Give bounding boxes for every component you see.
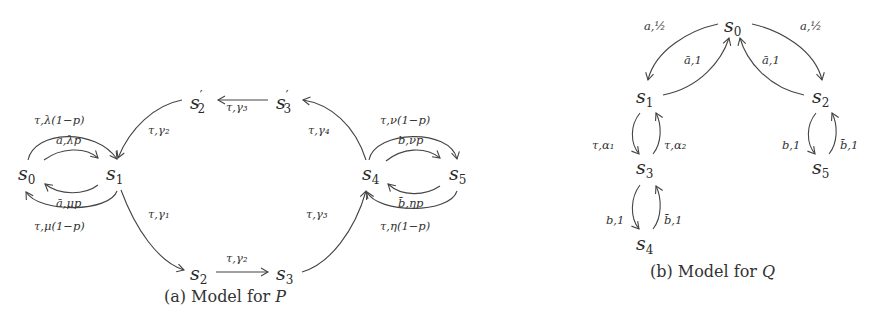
state-a-s3-prime: s′3 (276, 89, 291, 116)
label-b-s1-s0: ā,1 (684, 53, 702, 67)
label-b-s1-s3: τ,α₁ (592, 138, 614, 152)
label-a-s5-s4-outer: τ,η(1−p) (380, 219, 430, 233)
label-b-s2-s5: b,1 (782, 138, 800, 152)
state-a-s2: s2 (190, 262, 207, 287)
label-b-s3-s1: τ,α₂ (664, 138, 687, 152)
label-a-s3-s4: τ,γ₃ (306, 207, 328, 221)
state-a-s4: s4 (362, 162, 380, 187)
edge-b-s3-s1 (653, 113, 660, 154)
edge-a-s3-s4 (302, 191, 366, 272)
state-a-s0: s0 (18, 162, 35, 187)
label-a-s4-s5-outer: τ,ν(1−p) (380, 113, 430, 127)
edge-a-s0-s1-inner (44, 150, 98, 160)
label-a-s0-s1-outer: τ,λ(1−p) (34, 113, 85, 127)
edge-a-s1-s0-inner (45, 184, 98, 193)
label-b-s5-s2: b̄,1 (840, 138, 858, 152)
state-b-s0: s0 (724, 14, 741, 39)
label-a-s4-s3p: τ,γ₄ (308, 123, 330, 137)
edge-b-s5-s2 (829, 113, 836, 154)
label-b-s2-s0: ā,1 (762, 53, 780, 67)
figure-b: s0 s1 s2 s3 s5 s4 a,½ a,½ ā,1 ā,1 τ,α₁ τ… (592, 14, 858, 281)
label-a-s1-s0-outer: τ,μ(1−p) (34, 219, 85, 233)
state-a-s1: s1 (106, 162, 123, 187)
edge-a-s4-s5-inner (386, 150, 440, 161)
label-b-s4-s3: b̄,1 (664, 213, 682, 227)
edge-a-s5-s4-inner (388, 184, 440, 194)
figure-a: s0 s1 s2 s3 s′2 s′3 s4 s5 τ,λ(1−p) a,λp … (18, 89, 466, 306)
label-a-s3p-s2p: τ,γ₃ (226, 100, 248, 114)
label-b-s0-s2: a,½ (800, 19, 822, 33)
label-a-s1-s0-inner: ā,μp (56, 196, 82, 210)
diagram-canvas: s0 s1 s2 s3 s′2 s′3 s4 s5 τ,λ(1−p) a,λp … (0, 0, 875, 315)
state-a-s5: s5 (449, 162, 466, 187)
label-a-s5-s4-inner: b̄,ηp (398, 196, 424, 210)
label-b-s3-s4: b,1 (606, 213, 624, 227)
label-b-s0-s1: a,½ (644, 19, 666, 33)
state-a-s3: s3 (276, 262, 293, 287)
edge-a-s1-s2 (121, 190, 184, 270)
edge-b-s1-s3 (632, 113, 640, 154)
state-b-s3: s3 (636, 156, 653, 181)
state-a-s2-prime: s′2 (190, 89, 205, 116)
edge-b-s2-s5 (808, 113, 816, 154)
label-a-s2p-s1: τ,γ₂ (148, 123, 170, 137)
state-b-s5: s5 (812, 156, 829, 181)
label-a-s4-s5-inner: b,νp (398, 133, 424, 147)
state-b-s2: s2 (812, 85, 829, 110)
caption-a: (a) Model for P (164, 287, 286, 306)
state-b-s4: s4 (636, 232, 654, 257)
label-a-s2-s3: τ,γ₂ (226, 251, 248, 265)
state-b-s1: s1 (636, 85, 653, 110)
label-a-s0-s1-inner: a,λp (56, 133, 82, 147)
label-a-s1-s2: τ,γ₁ (148, 207, 170, 221)
caption-b: (b) Model for Q (650, 262, 775, 281)
edge-b-s3-s4 (632, 185, 640, 229)
edge-b-s4-s3 (653, 186, 660, 229)
